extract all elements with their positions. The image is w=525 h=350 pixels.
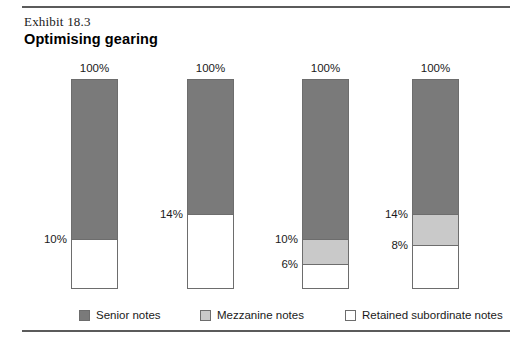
- segment-boundary-label: 8%: [391, 239, 408, 251]
- segment-boundary-label: 14%: [160, 208, 183, 220]
- bar-group: 100%14%: [187, 62, 234, 294]
- bar-segment-retained: [303, 264, 348, 288]
- segment-boundary-label: 10%: [275, 233, 298, 245]
- segment-boundary-label: 10%: [44, 233, 67, 245]
- legend-label: Mezzanine notes: [217, 309, 304, 321]
- bar-group: 100%10%6%: [302, 62, 349, 294]
- stacked-bar-plot-area: 100%10%100%14%100%10%6%100%14%8%: [0, 0, 525, 300]
- bar-segment-mezzanine: [303, 239, 348, 264]
- legend-swatch-mezzanine-icon: [200, 310, 211, 321]
- bar-total-label: 100%: [302, 62, 349, 74]
- legend-item[interactable]: Retained subordinate notes: [345, 309, 503, 321]
- stacked-bar: 10%: [71, 79, 118, 289]
- segment-boundary-label: 14%: [385, 208, 408, 220]
- bottom-divider-rule: [22, 330, 510, 332]
- bar-group: 100%14%8%: [412, 62, 459, 294]
- bar-segment-senior: [303, 80, 348, 239]
- bar-total-label: 100%: [412, 62, 459, 74]
- bar-group: 100%10%: [71, 62, 118, 294]
- stacked-bar: 14%: [187, 79, 234, 289]
- segment-boundary-label: 6%: [281, 258, 298, 270]
- legend-label: Retained subordinate notes: [362, 309, 503, 321]
- legend-item[interactable]: Mezzanine notes: [200, 309, 304, 321]
- bar-segment-senior: [188, 80, 233, 214]
- bar-segment-senior: [413, 80, 458, 214]
- legend-label: Senior notes: [96, 309, 161, 321]
- chart-legend: Senior notesMezzanine notesRetained subo…: [0, 309, 525, 327]
- exhibit-figure: Exhibit 18.3 Optimising gearing 100%10%1…: [0, 0, 525, 350]
- bar-segment-retained: [188, 214, 233, 288]
- bar-total-label: 100%: [187, 62, 234, 74]
- bar-segment-retained: [413, 245, 458, 288]
- bar-segment-senior: [72, 80, 117, 239]
- bar-segment-retained: [72, 239, 117, 288]
- legend-item[interactable]: Senior notes: [79, 309, 161, 321]
- stacked-bar: 14%8%: [412, 79, 459, 289]
- stacked-bar: 10%6%: [302, 79, 349, 289]
- legend-swatch-retained-icon: [345, 310, 356, 321]
- legend-swatch-senior-icon: [79, 310, 90, 321]
- bar-segment-mezzanine: [413, 214, 458, 245]
- bar-total-label: 100%: [71, 62, 118, 74]
